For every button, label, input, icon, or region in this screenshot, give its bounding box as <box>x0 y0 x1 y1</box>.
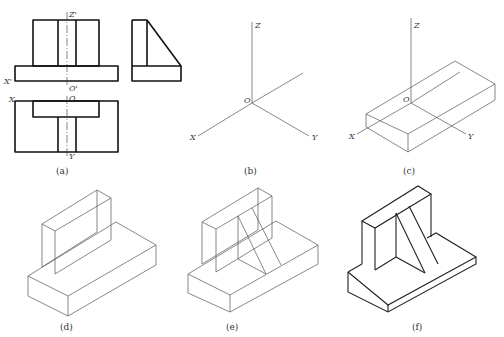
caption-e: (e) <box>226 322 238 332</box>
label-y: Y <box>468 132 474 141</box>
label-o: O <box>69 94 76 103</box>
panel-f-final-isometric: (f) <box>348 186 476 332</box>
caption-c: (c) <box>403 166 415 176</box>
panel-b-isometric-axes: Z O X Y (b) <box>189 21 318 176</box>
label-o: O <box>403 95 410 104</box>
caption-f: (f) <box>412 322 422 332</box>
panel-a-orthographic-views: Z' X' O' X O Y (a) <box>3 10 181 176</box>
label-y: Y <box>312 133 318 142</box>
top-view <box>15 96 118 158</box>
label-z: Z <box>254 21 261 30</box>
label-x: X <box>189 133 196 142</box>
label-x-prime: X' <box>3 77 12 86</box>
side-view <box>132 20 181 81</box>
label-o: O <box>244 96 251 105</box>
panel-e-rib-added: (e) <box>188 188 318 332</box>
label-x: X <box>8 95 15 104</box>
caption-a: (a) <box>56 166 68 176</box>
label-z-prime: Z' <box>68 10 77 19</box>
panel-c-base-plate: Z O X Y (c) <box>348 18 495 176</box>
label-o-prime: O' <box>69 84 78 93</box>
caption-b: (b) <box>244 166 257 176</box>
label-z: Z <box>413 21 420 30</box>
isometric-construction-figure: Z' X' O' X O Y (a) Z O X Y <box>0 0 504 337</box>
label-x: X <box>348 132 355 141</box>
panel-d-upright-added: (d) <box>28 190 156 332</box>
front-view <box>15 12 118 86</box>
caption-d: (d) <box>60 322 73 332</box>
label-y: Y <box>69 152 75 161</box>
